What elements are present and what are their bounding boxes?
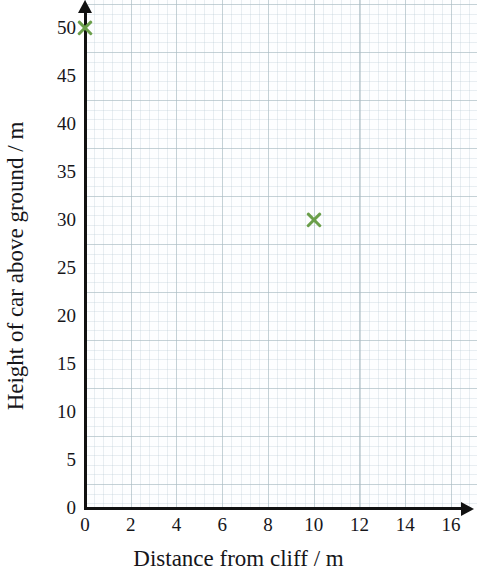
y-tick-label: 40 — [40, 114, 76, 133]
y-tick-label: 25 — [40, 258, 76, 277]
x-tick-label: 6 — [218, 515, 228, 534]
y-tick-label: 30 — [40, 210, 76, 229]
y-axis-title: Height of car above ground / m — [3, 12, 29, 520]
y-tick-label: 50 — [40, 18, 76, 37]
x-tick-label: 16 — [442, 515, 461, 534]
y-axis-arrowhead — [78, 0, 92, 13]
data-point-cross-marker — [305, 211, 323, 229]
data-point-cross-marker — [76, 19, 94, 37]
y-tick-label: 10 — [40, 402, 76, 421]
y-axis-line — [84, 10, 87, 510]
x-axis-arrowhead — [461, 502, 474, 516]
y-tick-label: 20 — [40, 306, 76, 325]
x-tick-label: 14 — [396, 515, 415, 534]
y-tick-label: 15 — [40, 354, 76, 373]
x-tick-label: 4 — [172, 515, 182, 534]
y-tick-label: 5 — [40, 450, 76, 469]
x-tick-label: 8 — [263, 515, 273, 534]
y-tick-label: 0 — [40, 498, 76, 517]
y-tick-label: 35 — [40, 162, 76, 181]
x-tick-label: 0 — [80, 515, 90, 534]
x-tick-label: 2 — [126, 515, 136, 534]
x-axis-title: Distance from cliff / m — [0, 546, 477, 572]
y-tick-label: 45 — [40, 66, 76, 85]
x-axis-line — [85, 507, 463, 510]
x-tick-label: 10 — [304, 515, 323, 534]
graph-paper-grid — [85, 0, 477, 508]
x-tick-label: 12 — [350, 515, 369, 534]
graph-figure: 05101520253035404550 0246810121416 Dista… — [0, 0, 477, 582]
